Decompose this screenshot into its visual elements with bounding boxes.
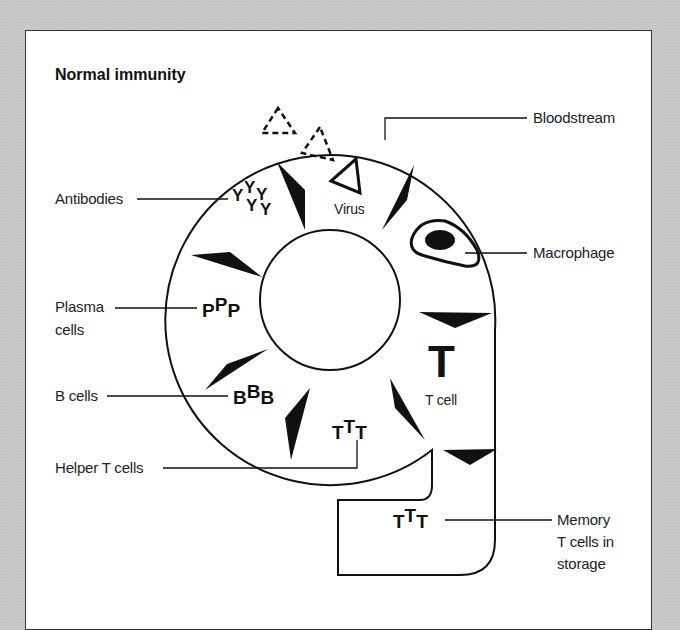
memory-label-line2: T cells in [557, 532, 614, 552]
plasma-label-line1: Plasma [55, 297, 104, 317]
bloodstream-leader [385, 118, 527, 140]
memory-label-line1: Memory [557, 510, 610, 530]
virus-dashed-icon [262, 108, 295, 133]
blood-cell-wedge-icon [191, 252, 262, 277]
antibody-glyph: Y [232, 188, 243, 204]
blood-cell-wedge-icon [419, 312, 492, 328]
blood-cell-wedge-icon [285, 388, 310, 460]
plasma-glyph: P [202, 300, 215, 322]
t-glyph: T [332, 422, 344, 444]
b-glyph: B [233, 387, 247, 409]
helper-t-cells-icon: TTT [332, 416, 367, 438]
antibody-glyph: Y [246, 198, 257, 214]
t-glyph: T [405, 505, 417, 527]
memory-t-cells-icon: TTT [393, 505, 428, 527]
antibodies-label: Antibodies [55, 189, 123, 209]
plasma-glyph: P [215, 294, 228, 316]
t-glyph: T [355, 422, 367, 444]
tcell-label: T cell [425, 390, 457, 410]
antibodies-icon: Y Y Y Y Y [232, 178, 292, 218]
inner-circle [260, 230, 400, 370]
t-cell-icon: T [428, 340, 455, 384]
blood-cell-wedge-icon [390, 378, 425, 440]
bloodstream-label: Bloodstream [533, 108, 615, 128]
memory-label-line3: storage [557, 554, 606, 574]
virus-icon [331, 159, 360, 193]
blood-cell-wedge-icon [382, 165, 414, 230]
macrophage-nucleus-icon [425, 230, 455, 250]
plasma-cells-icon: PPP [202, 294, 240, 316]
b-glyph: B [247, 381, 261, 403]
b-cells-icon: BBB [233, 381, 274, 403]
antibody-glyph: Y [260, 202, 271, 218]
plasma-label-line2: cells [55, 320, 84, 340]
b-glyph: B [260, 387, 274, 409]
plasma-glyph: P [227, 300, 240, 322]
figure-title: Normal immunity [55, 66, 186, 84]
antibody-glyph: Y [244, 180, 255, 196]
virus-label: Virus [334, 199, 365, 219]
macrophage-label: Macrophage [533, 243, 614, 263]
bcells-label: B cells [55, 386, 98, 406]
blood-cell-wedge-icon [443, 449, 497, 465]
t-glyph: T [344, 416, 356, 438]
t-glyph: T [416, 511, 428, 533]
t-glyph: T [393, 511, 405, 533]
t-glyph: T [428, 340, 455, 384]
helper-leader [163, 440, 357, 468]
helper-tcells-label: Helper T cells [55, 458, 143, 478]
